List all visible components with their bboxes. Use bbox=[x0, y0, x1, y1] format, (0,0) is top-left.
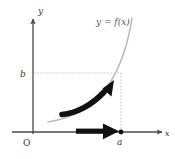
y-axis-label: y bbox=[37, 6, 44, 16]
x-axis-label: x bbox=[165, 129, 170, 138]
graph-canvas: y x O y = f(x) b a bbox=[0, 0, 175, 159]
input-arrow bbox=[76, 123, 119, 139]
function-graph-figure: y x O y = f(x) b a bbox=[0, 0, 175, 159]
point-marker-a bbox=[119, 130, 124, 135]
y-value-label-b: b bbox=[20, 69, 26, 79]
origin-label: O bbox=[23, 138, 30, 148]
x-value-label-a: a bbox=[117, 137, 122, 147]
mapping-arrow bbox=[62, 80, 114, 115]
y-axis: y bbox=[33, 6, 44, 134]
function-curve-label: y = f(x) bbox=[95, 17, 130, 27]
mapping-arrow-shaft bbox=[62, 92, 104, 115]
input-arrow-shaft bbox=[76, 129, 105, 134]
